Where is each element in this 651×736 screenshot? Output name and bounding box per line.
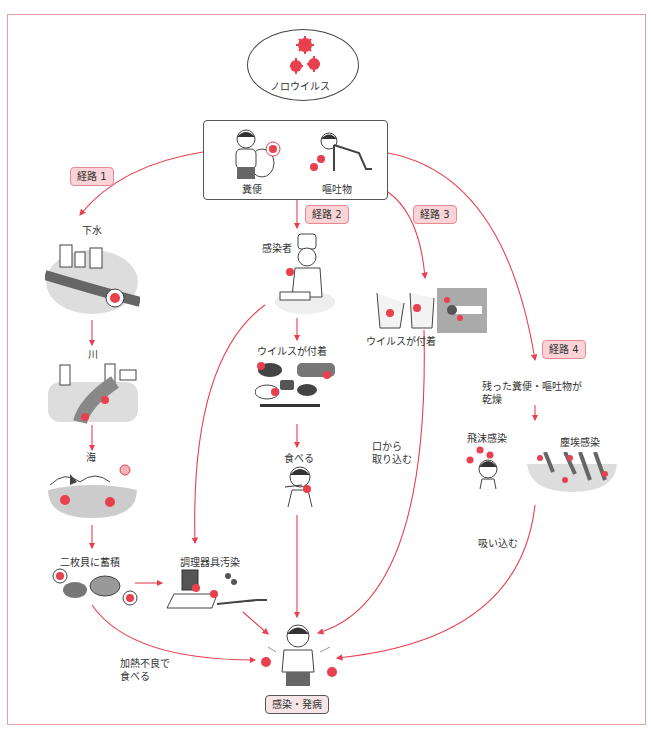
virus-attached-hands-label: ウイルスが付着 <box>366 335 436 348</box>
infected-cook-icon <box>270 232 335 317</box>
route-2-badge: 経路 2 <box>305 205 349 224</box>
person-vomiting-icon <box>304 131 379 176</box>
source-label: ノロウイルス <box>270 80 330 93</box>
virus-attached-food-label: ウイルスが付着 <box>257 345 327 358</box>
ingest-by-mouth-edge-label: 口から 取り込む <box>372 440 412 466</box>
river-icon <box>45 362 140 424</box>
dust-infection-icon <box>525 452 620 494</box>
cooking-utensils-icon <box>162 568 272 613</box>
sea-icon <box>45 460 140 520</box>
origin-vomit-label: 嘔吐物 <box>322 183 352 196</box>
eating-label: 食べる <box>284 452 314 465</box>
contaminated-food-icon <box>255 360 340 415</box>
droplet-infection-icon <box>462 445 512 490</box>
dried-residue-label: 残った糞便・嘔吐物が 乾燥 <box>482 380 582 406</box>
route-1-badge: 経路 1 <box>70 167 114 186</box>
undercooked-edge-label: 加熱不良で 食べる <box>120 657 170 683</box>
origin-feces-label: 糞便 <box>242 183 262 196</box>
person-eating-icon <box>280 465 320 510</box>
virus-icon <box>290 36 320 80</box>
inhale-edge-label: 吸い込む <box>478 537 518 550</box>
shellfish-icon <box>50 568 140 608</box>
hands-doorknob-icon <box>372 288 487 333</box>
outcome-badge: 感染・発病 <box>265 695 329 714</box>
river-label: 川 <box>88 348 98 361</box>
dust-infection-label: 塵埃感染 <box>560 436 600 449</box>
sewage-label: 下水 <box>82 224 102 237</box>
origin-box: 糞便 嘔吐物 <box>203 120 388 200</box>
droplet-infection-label: 飛沫感染 <box>467 432 507 445</box>
route-4-badge: 経路 4 <box>542 340 586 359</box>
person-on-toilet-icon <box>224 127 284 182</box>
norovirus-source: ノロウイルス <box>247 29 359 101</box>
sick-person-icon <box>258 622 338 690</box>
sewage-city-icon <box>45 240 140 315</box>
route-3-badge: 経路 3 <box>413 205 457 224</box>
